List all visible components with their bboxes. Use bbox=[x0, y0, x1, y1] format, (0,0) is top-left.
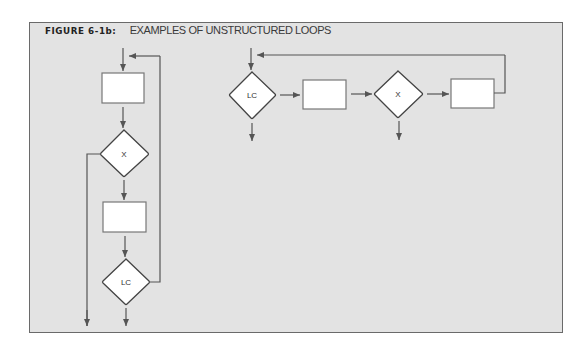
right-flowchart bbox=[230, 48, 506, 141]
decision-lc-label: LC bbox=[121, 278, 131, 287]
process-box-2 bbox=[103, 202, 146, 232]
process-box-right-2 bbox=[451, 79, 494, 108]
decision-lc-right-label: LC bbox=[247, 91, 257, 100]
loop-line-lc bbox=[149, 56, 160, 282]
process-box-right-1 bbox=[303, 80, 346, 109]
flowchart-diagram: X LC LC X bbox=[0, 0, 587, 352]
decision-x-label: X bbox=[121, 150, 127, 159]
exit-line-x bbox=[87, 154, 101, 326]
decision-x-right-label: X bbox=[395, 90, 401, 99]
process-box-1 bbox=[102, 73, 144, 103]
loop-line-right bbox=[494, 55, 505, 93]
